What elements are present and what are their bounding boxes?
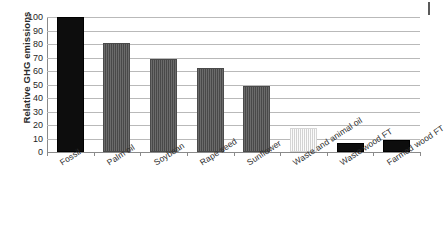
x-tick — [47, 152, 48, 156]
x-tick — [280, 152, 281, 156]
y-tick-label: 100 — [19, 13, 43, 22]
y-axis-tick-labels: 1009080706050403020100 — [15, 0, 43, 245]
y-tick-label: 60 — [19, 67, 43, 76]
y-tick-label: 70 — [19, 54, 43, 63]
bar — [150, 59, 177, 152]
y-tick-label: 0 — [19, 148, 43, 157]
y-tick-label: 90 — [19, 27, 43, 36]
y-tick-label: 40 — [19, 94, 43, 103]
plot-area — [47, 17, 420, 152]
y-tick-label: 10 — [19, 135, 43, 144]
y-tick-label: 20 — [19, 121, 43, 130]
bar — [57, 17, 84, 152]
x-tick — [327, 152, 328, 156]
x-tick — [187, 152, 188, 156]
y-tick-label: 80 — [19, 40, 43, 49]
x-tick — [234, 152, 235, 156]
y-tick-label: 50 — [19, 81, 43, 90]
bar — [243, 86, 270, 152]
gridline — [47, 17, 420, 18]
x-tick — [420, 152, 421, 156]
y-tick-label: 30 — [19, 108, 43, 117]
bar — [197, 68, 224, 152]
x-tick — [94, 152, 95, 156]
bar — [103, 43, 130, 152]
gridline — [47, 31, 420, 32]
x-tick — [373, 152, 374, 156]
crop-edge-mark — [428, 2, 430, 15]
x-tick — [140, 152, 141, 156]
